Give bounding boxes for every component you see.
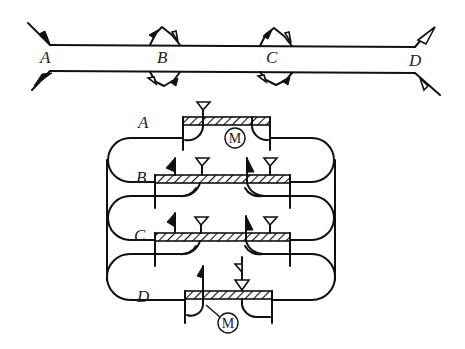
solid-flag-icon [149, 30, 158, 38]
top-section: A B C D [28, 23, 440, 95]
hatched-bar [185, 291, 272, 299]
flag-pole-icon [415, 41, 420, 47]
motor-label: M [222, 316, 235, 331]
open-triangle-icon [195, 217, 208, 225]
upper-line [50, 45, 415, 47]
motor-leader-line [206, 305, 221, 318]
motor-label: M [229, 131, 242, 146]
station-label-b: B [157, 48, 168, 67]
flag-pole-icon [415, 73, 440, 95]
hatched-bar [155, 175, 290, 183]
unit-label-d: D [136, 287, 150, 306]
curve [182, 241, 200, 254]
open-triangle-icon [264, 158, 277, 166]
open-flag-icon [235, 264, 242, 272]
solid-flag-icon [34, 73, 52, 86]
solid-flag-icon [247, 158, 254, 172]
station-label-c: C [266, 48, 278, 67]
open-flag-icon [258, 75, 266, 82]
unit-label-b: B [136, 168, 147, 187]
bottom-section: M A B [107, 102, 335, 333]
lower-line [50, 71, 415, 73]
unit-d: M [185, 257, 272, 333]
open-flag-icon [148, 77, 156, 84]
solid-flag-icon [197, 266, 203, 278]
hatched-bar [183, 117, 270, 125]
solid-flag-icon [39, 31, 50, 44]
hatched-bar [155, 233, 290, 241]
diagram-canvas: A B C D [0, 0, 465, 349]
solid-flag-icon [282, 77, 290, 85]
unit-b [155, 158, 290, 208]
curve [182, 183, 200, 196]
station-label-a: A [39, 48, 51, 67]
open-triangle-icon [235, 280, 249, 290]
unit-a: M [183, 102, 270, 150]
solid-flag-icon [246, 216, 253, 230]
unit-c [155, 213, 290, 266]
open-triangle-icon [197, 102, 210, 110]
open-flag-icon [418, 27, 435, 44]
curve [242, 299, 270, 317]
station-label-d: D [408, 51, 422, 70]
solid-flag-icon [166, 158, 175, 172]
unit-label-c: C [134, 226, 146, 245]
open-triangle-icon [196, 158, 209, 166]
open-triangle-icon [264, 217, 277, 225]
unit-label-a: A [137, 113, 149, 132]
solid-flag-icon [167, 213, 175, 227]
